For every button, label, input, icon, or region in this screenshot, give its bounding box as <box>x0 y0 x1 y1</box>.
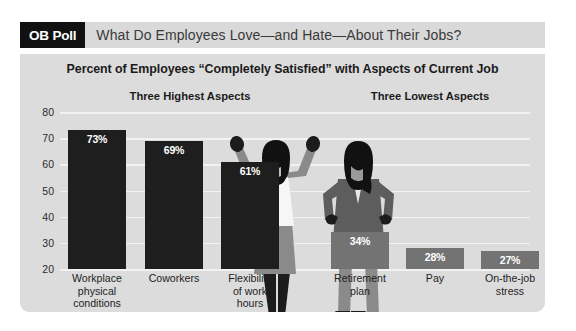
group-header-highest: Three Highest Aspects <box>110 90 270 102</box>
bar-value-label: 28% <box>425 251 446 269</box>
bar: 61% <box>221 162 279 269</box>
chart-panel: Percent of Employees “Completely Satisfi… <box>20 54 545 312</box>
x-axis-label-line: conditions <box>47 297 147 310</box>
y-axis-tick-label: 30 <box>42 237 54 249</box>
group-header-lowest: Three Lowest Aspects <box>350 90 510 102</box>
x-axis-label: On-the-jobstress <box>460 272 545 297</box>
poll-header-bar: OB Poll What Do Employees Love—and Hate—… <box>20 22 545 48</box>
bar: 27% <box>481 251 539 269</box>
x-axis-label-line: physical <box>47 285 147 298</box>
y-axis-tick-label: 40 <box>42 211 54 223</box>
bar-value-label: 34% <box>350 235 371 269</box>
y-axis-tick-label: 70 <box>42 132 54 144</box>
x-axis-label-line: plan <box>310 285 410 298</box>
y-axis-tick-label: 60 <box>42 158 54 170</box>
bar-value-label: 61% <box>240 165 261 269</box>
x-axis-labels: WorkplacephysicalconditionsCoworkersFlex… <box>60 272 530 312</box>
gridline <box>60 269 530 271</box>
bar-value-label: 27% <box>500 254 521 269</box>
bar: 28% <box>406 248 464 269</box>
bar-value-label: 69% <box>164 144 185 269</box>
x-axis-label-line: of work <box>200 285 300 298</box>
chart-title: Percent of Employees “Completely Satisfi… <box>20 62 545 76</box>
x-axis-label-line: hours <box>200 297 300 310</box>
x-axis-label-line: Flexibility <box>200 272 300 285</box>
x-axis-label-line: stress <box>460 285 545 298</box>
y-axis-tick-label: 50 <box>42 185 54 197</box>
y-axis-tick-label: 80 <box>42 106 54 118</box>
bar: 69% <box>145 141 203 269</box>
bar: 34% <box>331 232 389 269</box>
bars-layer: 73%69%61%34%28%27% <box>60 112 530 269</box>
bar-value-label: 73% <box>87 133 108 269</box>
x-axis-label-line: On-the-job <box>460 272 545 285</box>
poll-header-title: What Do Employees Love—and Hate—About Th… <box>85 27 461 43</box>
x-axis-label: Flexibilityof workhours <box>200 272 300 310</box>
bar: 73% <box>68 130 126 269</box>
ob-poll-badge: OB Poll <box>20 22 85 48</box>
